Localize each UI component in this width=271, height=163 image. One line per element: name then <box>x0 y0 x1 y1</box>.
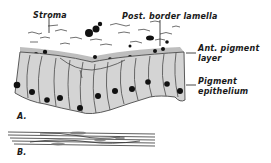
panel-a-label: A. <box>17 113 27 121</box>
pigment-epithelium-label-line1: Pigment <box>198 78 237 86</box>
panel-b-label: B. <box>17 149 27 157</box>
ant-pigment-layer-label-line1: Ant. pigment <box>198 45 259 53</box>
stroma-fibers <box>28 21 180 45</box>
pigment-epithelium-label-line2: epithelium <box>198 88 248 96</box>
stroma-label: Stroma <box>33 12 67 20</box>
post-border-lamella-label: Post. border lamella <box>122 13 218 21</box>
ant-pigment-layer-label-line2: layer <box>198 55 221 63</box>
histology-figure: Stroma Post. border lamella Ant. pigment… <box>0 0 271 163</box>
